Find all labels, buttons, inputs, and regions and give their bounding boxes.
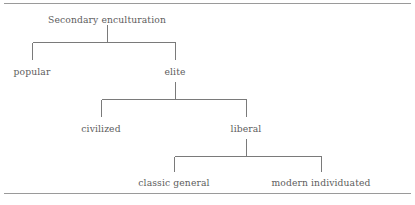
tree-node-civilized: civilized [81,123,120,134]
tree-node-modern-individuated: modern individuated [271,177,370,188]
tree-node-elite: elite [164,66,185,77]
tree-node-secondary-enculturation: Secondary enculturation [48,14,166,25]
tree-node-liberal: liberal [231,123,262,134]
tree-diagram-figure: Secondary enculturation popular elite ci… [0,0,415,205]
tree-connector-lines [0,0,415,205]
bottom-horizontal-rule [4,193,411,194]
tree-node-classic-general: classic general [138,177,209,188]
tree-node-popular: popular [14,66,51,77]
